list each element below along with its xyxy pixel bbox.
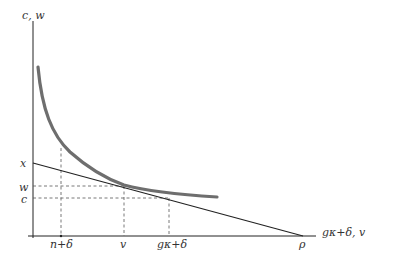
- x-tick-gk-delta: gκ+δ: [157, 238, 187, 251]
- x-tick-v: v: [120, 238, 127, 251]
- tick-dot: [60, 235, 62, 237]
- y-tick-c: c: [21, 193, 27, 206]
- diagram: c, w x w c n+δ v gκ+δ ρ gκ+δ, v: [0, 0, 402, 259]
- y-tick-x: x: [20, 157, 27, 170]
- x-axis-label: gκ+δ, v: [322, 226, 366, 239]
- y-axis-label: c, w: [22, 9, 45, 22]
- x-tick-n-delta: n+δ: [50, 238, 73, 251]
- dashed-guides: [33, 148, 169, 236]
- budget-line: [33, 163, 303, 236]
- x-tick-rho: ρ: [298, 238, 306, 251]
- convex-curve: [38, 67, 217, 197]
